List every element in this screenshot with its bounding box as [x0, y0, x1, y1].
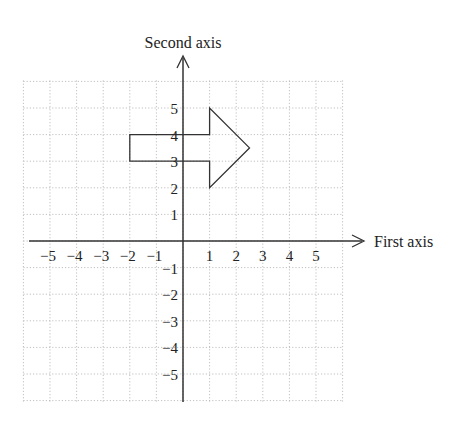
y-tick-label: −5 — [162, 367, 178, 383]
y-tick-label: −4 — [162, 340, 178, 356]
y-tick-label: 5 — [171, 101, 179, 117]
y-tick-label: 3 — [171, 154, 179, 170]
x-tick-label: −3 — [93, 248, 109, 264]
x-tick-label: 3 — [259, 248, 267, 264]
x-tick-label: 5 — [312, 248, 320, 264]
x-tick-label: −1 — [146, 248, 162, 264]
x-tick-labels: −5−4−3−2−112345 — [40, 248, 320, 264]
x-tick-label: 1 — [206, 248, 214, 264]
y-tick-label: 1 — [171, 207, 179, 223]
x-tick-label: −2 — [120, 248, 136, 264]
y-tick-labels: 54321−1−2−3−4−5 — [162, 101, 178, 383]
coordinate-plane: Second axis First axis −5−4−3−2−112345 5… — [0, 0, 472, 423]
y-tick-label: 2 — [171, 181, 179, 197]
x-tick-label: 2 — [232, 248, 240, 264]
x-axis-label: First axis — [374, 233, 433, 250]
x-tick-label: −4 — [67, 248, 83, 264]
y-tick-label: 4 — [171, 128, 179, 144]
y-tick-label: −2 — [162, 287, 178, 303]
arrow-shape — [130, 108, 250, 188]
x-tick-label: −5 — [40, 248, 56, 264]
y-tick-label: −3 — [162, 314, 178, 330]
y-axis-label: Second axis — [145, 34, 222, 51]
y-tick-label: −1 — [162, 261, 178, 277]
x-tick-label: 4 — [286, 248, 294, 264]
